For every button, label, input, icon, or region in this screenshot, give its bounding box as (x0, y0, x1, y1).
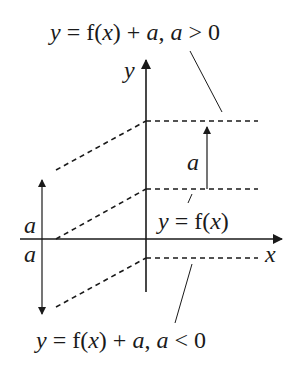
leader-base (188, 194, 192, 203)
equation-shift-up: y = f(x) + a, a > 0 (48, 19, 220, 45)
leader-top (190, 51, 222, 112)
curve-shifted-down (56, 258, 258, 307)
curve-shifted-up (56, 121, 258, 170)
shift-label-left-down: a (24, 241, 36, 267)
equation-base: y = f(x) (156, 208, 229, 234)
equation-shift-down: y = f(x) + a, a < 0 (34, 327, 206, 353)
shift-label-right: a (187, 149, 199, 175)
diagram-canvas: y = f(x) + a, a > 0 y a y = f(x) a a x y… (0, 0, 296, 369)
x-axis-label: x (264, 241, 276, 267)
y-axis-label: y (122, 57, 135, 83)
leader-bottom (175, 264, 192, 323)
shift-label-left-up: a (24, 212, 36, 238)
